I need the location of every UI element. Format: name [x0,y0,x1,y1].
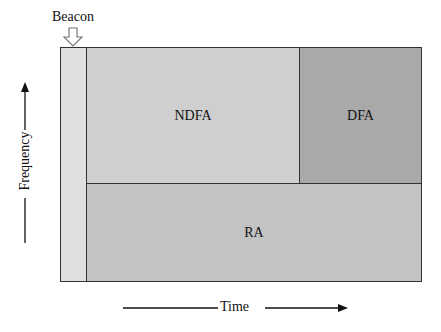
beacon-arrow-icon [62,27,84,48]
frequency-axis-label: Frequency [17,126,33,196]
ndfa-label: NDFA [174,108,211,124]
dfa-region: DFA [299,47,422,184]
beacon-region [60,47,87,282]
ndfa-region: NDFA [86,47,300,184]
dfa-label: DFA [347,108,374,124]
time-axis-label: Time [220,299,249,315]
ra-label: RA [244,225,263,241]
ra-region: RA [86,183,422,282]
beacon-label: Beacon [52,9,94,25]
